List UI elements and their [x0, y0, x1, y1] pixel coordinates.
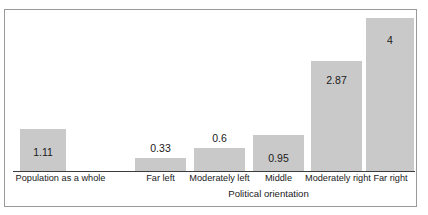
- x-axis-line: [13, 171, 415, 172]
- bar-value-middle: 0.95: [253, 153, 304, 164]
- x-axis-title: Political orientation: [5, 188, 416, 199]
- x-tick-label-middle: Middle: [253, 173, 304, 185]
- bar-value-moderately-left: 0.6: [194, 133, 245, 144]
- x-tick-label-population-as-a-whole: Population as a whole: [8, 173, 113, 185]
- x-axis-title-text: Political orientation: [228, 188, 309, 199]
- bar-value-moderately-right: 2.87: [311, 75, 362, 86]
- bar-moderately-left[interactable]: [194, 148, 245, 171]
- bar-value-population-as-a-whole: 1.11: [20, 147, 66, 158]
- plot-area: 1.11 0.33 0.6 0.95 2.87 4 Population as …: [5, 10, 416, 206]
- bar-value-far-left: 0.33: [135, 143, 186, 154]
- x-tick-label-moderately-right: Moderately right: [305, 173, 369, 185]
- x-tick-label-moderately-left: Moderately left: [189, 173, 250, 185]
- x-tick-label-far-right: Far right: [367, 173, 414, 185]
- x-tick-label-far-left: Far left: [133, 173, 188, 185]
- bar-far-left[interactable]: [135, 158, 186, 171]
- chart-figure: 1.11 0.33 0.6 0.95 2.87 4 Population as …: [4, 9, 417, 207]
- bar-value-far-right: 4: [366, 35, 414, 46]
